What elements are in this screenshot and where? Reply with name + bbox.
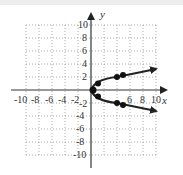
svg-text:2: 2 — [82, 71, 87, 82]
svg-text:8: 8 — [140, 94, 145, 105]
svg-text:-8: -8 — [31, 94, 39, 105]
svg-text:6: 6 — [127, 94, 132, 105]
svg-text:8: 8 — [82, 32, 87, 43]
svg-text:-6: -6 — [45, 94, 53, 105]
svg-text:-8: -8 — [76, 136, 84, 147]
svg-text:10: 10 — [78, 19, 88, 30]
x-tick-labels: -10 -8 -6 -4 -2 6 8 10 — [14, 94, 161, 105]
svg-text:10: 10 — [151, 94, 161, 105]
x-axis-label: x — [161, 94, 167, 106]
svg-text:-6: -6 — [76, 123, 84, 134]
y-axis-label: y — [99, 8, 105, 20]
svg-text:-4: -4 — [58, 94, 66, 105]
svg-text:-2: -2 — [79, 98, 87, 109]
svg-text:-10: -10 — [14, 94, 27, 105]
svg-text:6: 6 — [82, 45, 87, 56]
svg-text:-4: -4 — [76, 110, 84, 121]
svg-text:4: 4 — [82, 58, 87, 69]
graph: y x -10 -8 -6 -4 -2 6 8 10 10 8 6 4 2 -2… — [0, 0, 183, 175]
svg-text:-10: -10 — [73, 149, 86, 160]
